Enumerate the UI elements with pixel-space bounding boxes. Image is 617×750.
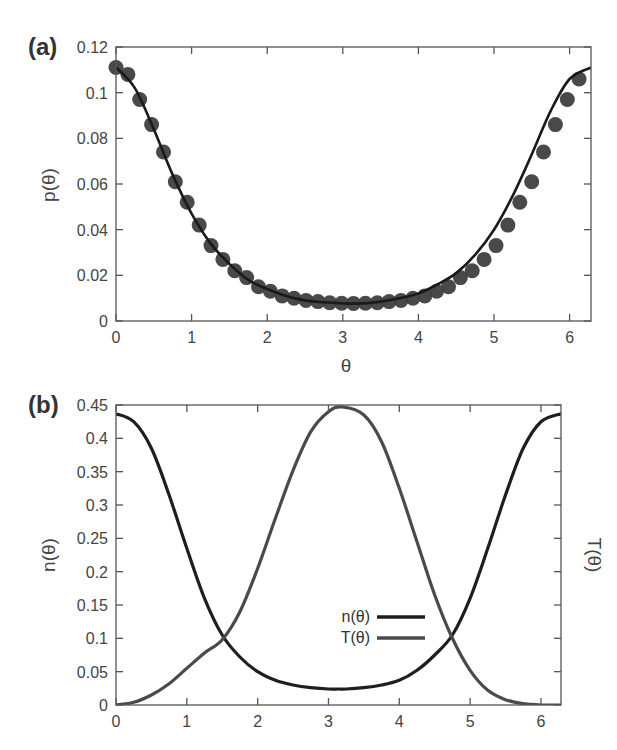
x-tick-label: 1	[182, 713, 191, 730]
x-tick-label: 0	[112, 329, 121, 346]
panel-b-right-y-axis-label: T(θ)	[584, 538, 605, 573]
panel-a-y-axis-label: p(θ)	[38, 168, 59, 202]
legend-label-n: n(θ)	[342, 608, 370, 625]
y-tick-label: 0	[99, 697, 108, 714]
x-tick-label: 4	[414, 329, 423, 346]
y-tick-label: 0.02	[77, 267, 108, 284]
x-tick-label: 6	[565, 329, 574, 346]
y-tick-label: 0.3	[86, 497, 108, 514]
y-tick-label: 0.25	[77, 530, 108, 547]
data-point	[489, 238, 504, 253]
panel-a-label: (a)	[28, 33, 57, 60]
y-tick-label: 0.45	[77, 397, 108, 414]
y-tick-label: 0.08	[77, 130, 108, 147]
panel-b-legend: n(θ) T(θ)	[341, 608, 425, 646]
x-tick-label: 3	[338, 329, 347, 346]
x-tick-label: 2	[263, 329, 272, 346]
data-point	[560, 92, 575, 107]
series-line-1	[116, 407, 561, 705]
y-tick-label: 0.1	[86, 85, 108, 102]
plot-frame	[116, 405, 561, 705]
x-tick-label: 5	[466, 713, 475, 730]
y-tick-label: 0.05	[77, 664, 108, 681]
panel-b-chart: (b) 012345600.050.10.150.20.250.30.350.4…	[28, 391, 605, 730]
x-tick-label: 0	[112, 713, 121, 730]
data-point	[512, 195, 527, 210]
x-tick-label: 6	[537, 713, 546, 730]
y-tick-label: 0.2	[86, 564, 108, 581]
x-tick-label: 2	[253, 713, 262, 730]
panel-b-plot-area	[116, 407, 561, 705]
data-point	[215, 252, 230, 267]
x-tick-label: 5	[490, 329, 499, 346]
data-point	[500, 218, 515, 233]
figure: (a) 012345600.020.040.060.080.10.12 θ p(…	[0, 0, 617, 750]
panel-a-x-axis-label: θ	[341, 355, 352, 376]
y-tick-label: 0.04	[77, 222, 108, 239]
data-point	[548, 117, 563, 132]
series-line-1	[116, 68, 591, 304]
data-point	[536, 145, 551, 160]
y-tick-label: 0.12	[77, 39, 108, 56]
series-line-0	[116, 414, 561, 689]
y-tick-label: 0.15	[77, 597, 108, 614]
y-tick-label: 0.4	[86, 430, 108, 447]
y-tick-label: 0	[99, 313, 108, 330]
panel-b-left-y-axis-label: n(θ)	[38, 538, 59, 572]
panel-b-label: (b)	[28, 391, 59, 418]
data-point	[465, 263, 480, 278]
panel-a-plot-area	[109, 60, 592, 311]
data-point	[524, 174, 539, 189]
x-tick-label: 1	[187, 329, 196, 346]
y-tick-label: 0.06	[77, 176, 108, 193]
data-markers	[109, 60, 587, 311]
panel-a-chart: (a) 012345600.020.040.060.080.10.12 θ p(…	[28, 33, 591, 376]
x-tick-label: 4	[395, 713, 404, 730]
data-point	[477, 252, 492, 267]
legend-label-t: T(θ)	[341, 629, 370, 646]
y-tick-label: 0.1	[86, 630, 108, 647]
x-tick-label: 3	[324, 713, 333, 730]
y-tick-label: 0.35	[77, 464, 108, 481]
